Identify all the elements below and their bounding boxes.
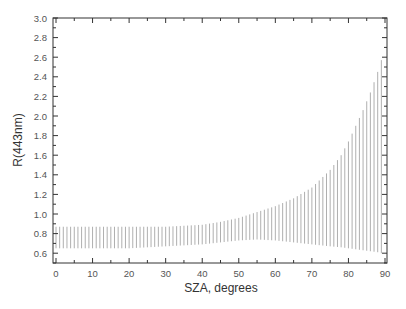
y-tick-label: 2.2 (34, 91, 47, 102)
chart: 0102030405060708090 0.60.81.01.21.41.61.… (0, 0, 406, 309)
y-tick-label: 1.6 (34, 150, 47, 161)
y-tick-label: 2.8 (34, 32, 47, 43)
x-tick-label: 70 (307, 268, 318, 279)
x-tick-label: 10 (87, 268, 98, 279)
x-tick-label: 0 (53, 268, 58, 279)
x-tick-label: 20 (124, 268, 135, 279)
y-tick-label: 2.6 (34, 52, 47, 63)
y-tick-label: 0.6 (34, 248, 47, 259)
x-tick-label: 50 (233, 268, 244, 279)
x-tick-label: 60 (270, 268, 281, 279)
y-tick-label: 1.4 (34, 169, 47, 180)
y-tick-label: 0.8 (34, 228, 47, 239)
y-tick-label: 2.0 (34, 111, 47, 122)
x-tick-label: 90 (380, 268, 391, 279)
y-tick-label: 1.8 (34, 130, 47, 141)
x-tick-label: 30 (160, 268, 171, 279)
plot-frame (53, 18, 387, 263)
y-tick-label: 3.0 (34, 13, 47, 24)
y-tick-label: 1.2 (34, 189, 47, 200)
y-tick-label: 2.4 (34, 71, 47, 82)
error-bars (56, 60, 381, 253)
x-tick-label: 40 (197, 268, 208, 279)
x-tick-label: 80 (343, 268, 354, 279)
y-tick-label: 1.0 (34, 209, 47, 220)
y-axis-title: R(443nm) (11, 113, 25, 166)
x-axis-title: SZA, degrees (184, 281, 257, 295)
